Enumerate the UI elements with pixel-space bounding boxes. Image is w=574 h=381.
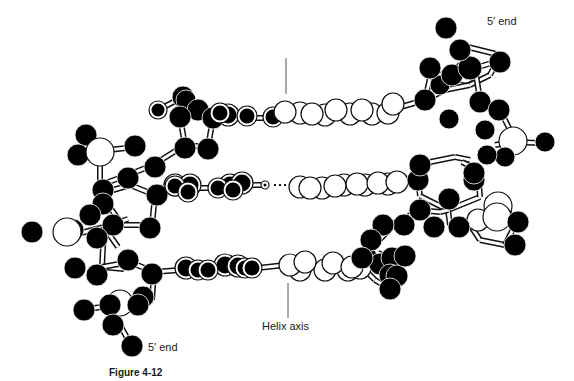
atom-dark — [117, 167, 139, 189]
bond — [440, 210, 448, 212]
atom-dark — [448, 216, 470, 238]
atom-dark — [475, 120, 495, 140]
five-prime-end-label-bottom: 5′ end — [148, 341, 178, 353]
atom-dark-ringed — [226, 183, 241, 198]
atom-dark — [507, 211, 529, 233]
atom-dark — [351, 247, 373, 269]
atom-dark-ringed — [181, 185, 196, 200]
atom-dark — [439, 109, 459, 129]
atom-dark — [197, 138, 219, 160]
atom-dark — [489, 51, 511, 73]
atom-dark — [393, 214, 415, 236]
figure-caption: Figure 4-12 — [109, 367, 162, 378]
atom-dark — [394, 245, 416, 267]
atom-light — [274, 101, 296, 123]
atom-dark — [504, 234, 526, 256]
atom-dark — [21, 221, 43, 243]
atom-dark — [174, 137, 196, 159]
atom-light — [351, 99, 373, 121]
atom-dark-ringed — [152, 104, 165, 117]
atom-dark — [86, 227, 108, 249]
atom-dark — [124, 135, 146, 157]
atom-light — [299, 177, 321, 199]
atom-dark — [67, 144, 89, 166]
atom-light — [322, 252, 344, 274]
atom-light — [301, 103, 323, 125]
atom-dark — [169, 106, 191, 128]
atom-dark — [117, 249, 139, 271]
atom-dark-ringed — [201, 263, 216, 278]
atom-light — [325, 99, 347, 121]
atom-dark — [73, 299, 95, 321]
helix-axis-label: Helix axis — [262, 320, 309, 332]
atom-light — [86, 138, 114, 166]
atom-dark — [139, 217, 161, 239]
atom-light — [324, 175, 346, 197]
atom-light — [53, 218, 81, 246]
atom-dark — [379, 278, 401, 300]
atom-dark — [121, 335, 143, 357]
atom-dark — [477, 145, 497, 165]
atom-light — [346, 173, 368, 195]
atom-dark — [99, 294, 121, 316]
atom-light — [294, 251, 316, 273]
atom-dark — [64, 257, 86, 279]
atom-dark — [535, 132, 555, 152]
atom-dark — [141, 263, 163, 285]
atom-dark — [419, 57, 441, 79]
atom-dark — [102, 314, 124, 336]
atom-dark — [449, 39, 471, 61]
atom-dark — [488, 99, 510, 121]
atom-dark — [463, 162, 485, 184]
atom-dark-ringed — [264, 184, 267, 187]
atom-dark — [127, 294, 149, 316]
atom-dark — [144, 156, 166, 178]
atom-dark — [438, 188, 460, 210]
atom-dark — [435, 17, 457, 39]
atom-light — [483, 203, 511, 231]
atom-dark-ringed — [240, 109, 255, 124]
atom-dark — [86, 264, 108, 286]
atom-dark-ringed — [245, 261, 260, 276]
atom-light — [386, 171, 408, 193]
atom-dark — [79, 204, 101, 226]
helix-axis-lines — [286, 58, 288, 318]
atom-dark-ringed — [213, 106, 228, 121]
atom-dark — [409, 154, 431, 176]
five-prime-end-label-top: 5′ end — [487, 15, 517, 27]
atom-dark — [495, 147, 515, 167]
atom-light — [382, 93, 404, 115]
